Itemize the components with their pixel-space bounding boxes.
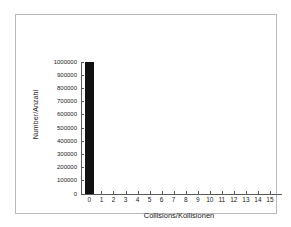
y-tick-label: 400000 <box>57 137 77 146</box>
y-tick-label: 100000 <box>57 176 77 185</box>
y-tick-label: 500000 <box>57 124 77 133</box>
figure-frame: Number/Anzahl Collisions/Kollisionen 010… <box>15 14 277 214</box>
y-tick: 100000 <box>19 176 81 185</box>
y-tick: 200000 <box>19 163 81 172</box>
y-tick: 0 <box>19 190 81 199</box>
plot-area: 0100000200000300000400000500000600000700… <box>81 62 282 194</box>
y-tick: 600000 <box>19 110 81 119</box>
y-tick: 500000 <box>19 124 81 133</box>
bar-series <box>81 62 282 194</box>
x-tick-label: 15 <box>262 196 278 203</box>
y-tick: 1000000 <box>19 58 81 67</box>
y-tick: 400000 <box>19 137 81 146</box>
y-tick-label: 0 <box>74 190 77 199</box>
y-tick: 300000 <box>19 150 81 159</box>
y-tick-label: 800000 <box>57 84 77 93</box>
y-tick-label: 600000 <box>57 110 77 119</box>
y-tick-label: 300000 <box>57 150 77 159</box>
y-tick-label: 900000 <box>57 71 77 80</box>
bar <box>85 62 94 194</box>
x-axis-title: Collisions/Kollisionen <box>76 211 282 220</box>
y-tick-label: 700000 <box>57 97 77 106</box>
y-tick: 900000 <box>19 71 81 80</box>
y-tick: 700000 <box>19 97 81 106</box>
y-tick: 800000 <box>19 84 81 93</box>
y-tick-label: 1000000 <box>54 58 77 67</box>
y-tick-label: 200000 <box>57 163 77 172</box>
x-axis-line <box>81 194 282 195</box>
